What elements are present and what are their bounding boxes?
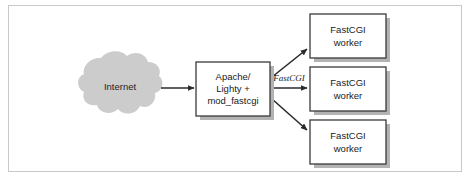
- edge-server-to-worker-bottom: [272, 99, 307, 130]
- node-worker-middle-line1: FastCGI: [330, 77, 365, 88]
- node-server-line1: Apache/: [216, 71, 251, 82]
- node-worker-top: FastCGI worker: [310, 14, 390, 62]
- node-worker-bottom-line1: FastCGI: [330, 130, 365, 141]
- node-server: Apache/ Lighty + mod_fastcgi: [196, 62, 274, 120]
- node-worker-middle: FastCGI worker: [310, 67, 390, 115]
- node-worker-middle-line2: worker: [333, 90, 363, 101]
- diagram-canvas: Internet FastCGI Apache/ Lighty + mod_fa…: [0, 0, 473, 185]
- node-worker-bottom-line2: worker: [333, 143, 363, 154]
- node-server-line3: mod_fastcgi: [207, 95, 258, 106]
- node-server-line2: Lighty +: [216, 83, 250, 94]
- node-internet-label: Internet: [104, 81, 137, 92]
- node-worker-top-line2: worker: [333, 37, 363, 48]
- edge-label-fastcgi: FastCGI: [272, 73, 306, 83]
- node-internet: Internet: [78, 51, 162, 113]
- diagram-figure: Internet FastCGI Apache/ Lighty + mod_fa…: [0, 0, 473, 185]
- node-worker-bottom: FastCGI worker: [310, 120, 390, 168]
- node-worker-top-line1: FastCGI: [330, 24, 365, 35]
